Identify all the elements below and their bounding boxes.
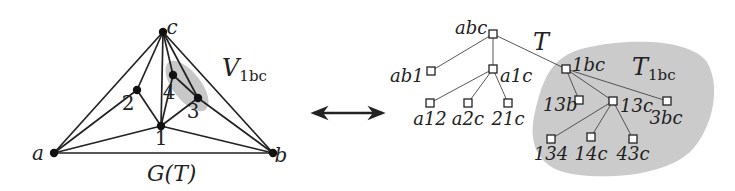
tree-node-label-14c: 14c (575, 143, 608, 164)
graph-vertex-label-1: 1 (155, 126, 168, 150)
tree-edge-abc-ab1 (431, 34, 493, 71)
graph-edge-1-b (161, 126, 273, 153)
tree-node-1bc (562, 65, 570, 73)
tree-edge-a1c-a2c (468, 69, 493, 103)
graph-vertex-label-3: 3 (187, 99, 200, 123)
graph-vertex-label-a: a (32, 141, 44, 165)
tree-node-label-1bc: 1bc (572, 54, 605, 75)
tree-node-a12 (426, 99, 434, 107)
tree-node-label-ab1: ab1 (390, 65, 424, 86)
tree-node-14c (587, 133, 595, 141)
graph-edge-c-2 (137, 32, 163, 90)
graph-edge-c-1 (161, 32, 163, 126)
tree-node-label-3bc: 3bc (649, 107, 682, 128)
tree-node-label-abc: abc (455, 17, 487, 38)
graph-edge-2-1 (137, 90, 161, 126)
region-label-v1bc: V1bc (222, 54, 267, 85)
graph-vertex-a (50, 149, 58, 157)
tree-node-13c (609, 97, 617, 105)
tree-node-ab1 (427, 67, 435, 75)
tree-node-label-21c: 21c (491, 108, 525, 129)
tree-node-label-13c: 13c (620, 95, 653, 116)
tree-node-21c (504, 99, 512, 107)
tree-node-label-43c: 43c (616, 143, 650, 164)
tree-node-134 (547, 135, 555, 143)
graph-edge-a-c (54, 32, 163, 153)
tree-node-a1c (489, 65, 497, 73)
tree-node-43c (629, 135, 637, 143)
graph-vertex-4 (169, 71, 177, 79)
tree-node-label-13b: 13b (543, 94, 577, 115)
tree-node-abc (489, 30, 497, 38)
tree-node-a2c (464, 99, 472, 107)
graph-vertex-label-4: 4 (163, 80, 176, 104)
tree-edge-abc-1bc (493, 34, 566, 69)
tree-node-3bc (663, 97, 671, 105)
tree-node-label-a2c: a2c (452, 108, 484, 129)
graph-vertex-label-2: 2 (122, 91, 135, 115)
tree-edge-a1c-a12 (430, 69, 493, 103)
graph-title: G(T) (147, 161, 196, 186)
graph-vertex-label-c: c (166, 15, 177, 39)
tree-node-label-a1c: a1c (500, 65, 532, 86)
graph-vertex-label-b: b (275, 143, 288, 167)
tree-node-label-a12: a12 (413, 108, 447, 129)
tree-node-label-134: 134 (534, 143, 568, 164)
figure-canvas: abc1234 abcab1a1c1bca12a2c21c13b13c3bc13… (0, 0, 735, 191)
tree-title: T (533, 28, 551, 56)
graph-edge-a-1 (54, 126, 161, 153)
